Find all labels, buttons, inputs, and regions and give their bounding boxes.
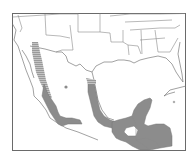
species-range [32,42,172,150]
range-east-mexico [88,82,118,128]
range-map [0,0,196,163]
range-east-hatched [86,78,96,84]
range-isolated-dot [64,85,67,88]
range-yucatan-central-america [112,98,172,150]
